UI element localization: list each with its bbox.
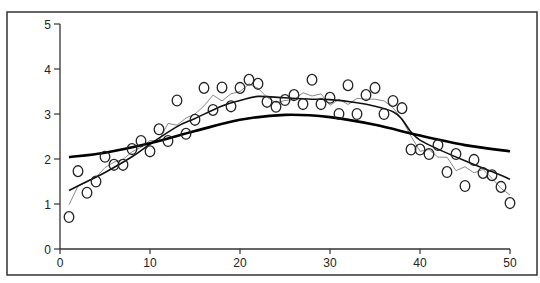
y-tick-label: 0 (44, 243, 51, 257)
x-tick-label: 10 (143, 256, 157, 270)
y-tick-label: 5 (44, 18, 51, 32)
y-tick-label: 4 (44, 63, 51, 77)
chart-container: 01234501020304050 (0, 0, 540, 283)
y-tick-label: 1 (44, 198, 51, 212)
x-tick-label: 40 (413, 256, 427, 270)
x-tick-label: 20 (233, 256, 247, 270)
y-tick-label: 3 (44, 108, 51, 122)
scatter-plot: 01234501020304050 (0, 0, 540, 283)
y-tick-label: 2 (44, 153, 51, 167)
x-tick-label: 50 (503, 256, 517, 270)
x-tick-label: 0 (57, 256, 64, 270)
x-tick-label: 30 (323, 256, 337, 270)
